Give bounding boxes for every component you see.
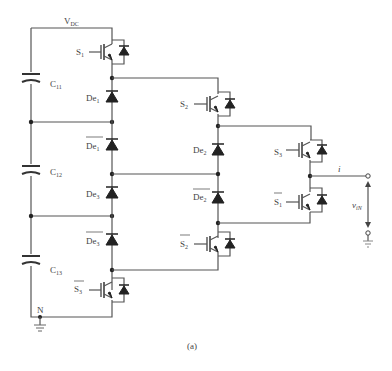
switch-s1: S1 <box>76 40 129 64</box>
diode-de2-bar: De2 <box>193 189 224 203</box>
capacitor-c13: C13 <box>22 256 62 276</box>
diode-de1-bar: De1 <box>86 137 118 152</box>
svg-text:S1: S1 <box>76 47 84 58</box>
switch-s3: S3 <box>274 140 327 162</box>
diode-de2: De2 <box>193 144 224 156</box>
svg-text:N: N <box>37 305 44 315</box>
svg-text:S1: S1 <box>274 197 282 208</box>
svg-text:S2: S2 <box>180 239 188 250</box>
diode-de3-bar: De3 <box>86 232 118 247</box>
svg-text:C11: C11 <box>50 79 62 90</box>
svg-text:De1: De1 <box>86 141 100 152</box>
output-terminal: i viN <box>310 164 373 247</box>
switch-s3-bar: S3 <box>74 278 129 302</box>
svg-text:i: i <box>338 164 341 174</box>
svg-text:De3: De3 <box>86 189 100 200</box>
svg-text:De2: De2 <box>193 192 207 203</box>
svg-text:C12: C12 <box>50 167 62 178</box>
voltage-label: viN <box>352 200 363 211</box>
svg-text:S2: S2 <box>180 99 188 110</box>
capacitor-c11: C11 <box>22 74 62 90</box>
svg-text:De1: De1 <box>86 93 100 104</box>
svg-text:S3: S3 <box>74 284 82 295</box>
switch-s1-bar: S1 <box>274 188 327 212</box>
figure-caption: (a) <box>187 341 197 351</box>
svg-text:S3: S3 <box>274 147 282 158</box>
svg-text:C13: C13 <box>50 265 62 276</box>
vdc-label: VDC <box>64 16 79 27</box>
diode-de3: De3 <box>86 187 118 200</box>
circuit-diagram: VDC C11 C12 C13 N De1 <box>0 0 392 371</box>
capacitor-c12: C12 <box>22 166 62 178</box>
diode-de1: De1 <box>86 91 118 104</box>
svg-text:De2: De2 <box>193 145 207 156</box>
dc-bus: VDC <box>31 16 112 317</box>
svg-text:De3: De3 <box>86 236 100 247</box>
switch-s2-bar: S2 <box>180 232 235 256</box>
neutral-ground: N <box>34 305 46 331</box>
switch-s2: S2 <box>180 92 235 116</box>
